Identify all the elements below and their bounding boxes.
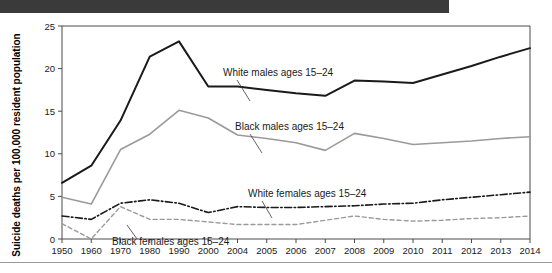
x-tick-label: 2010 xyxy=(402,245,423,256)
annotation-white-males: White males ages 15–24 xyxy=(223,67,334,78)
screenshot-root: Suicide deaths per 100,000 resident popu… xyxy=(0,0,552,273)
x-tick-label: 2011 xyxy=(432,245,452,256)
line-chart-figure: Suicide deaths per 100,000 resident popu… xyxy=(0,13,552,258)
chart-canvas: Suicide deaths per 100,000 resident popu… xyxy=(0,13,552,258)
top-banner-bar xyxy=(0,0,449,13)
y-tick-label: 5 xyxy=(50,191,55,202)
series-line-black-females-ages-15-24 xyxy=(62,207,530,239)
annotation-black-females: Black females ages 15–24 xyxy=(112,236,230,247)
x-tick-label: 2005 xyxy=(256,245,277,256)
y-tick-label: 20 xyxy=(44,63,55,74)
y-tick-label: 25 xyxy=(44,21,55,32)
x-tick-label: 2014 xyxy=(519,245,540,256)
annotation-white-females-leader xyxy=(262,201,272,218)
series-line-white-males-ages-15-24 xyxy=(62,41,530,182)
annotation-white-females: White females ages 15–24 xyxy=(248,188,367,199)
x-tick-label: 2008 xyxy=(344,245,365,256)
x-tick-label: 2013 xyxy=(490,245,511,256)
x-tick-label: 2007 xyxy=(315,245,336,256)
x-tick-label: 2006 xyxy=(285,245,306,256)
x-tick-label: 2004 xyxy=(227,245,248,256)
y-tick-label: 10 xyxy=(44,148,55,159)
bottom-divider-rule xyxy=(0,262,552,263)
x-tick-label: 1960 xyxy=(81,245,102,256)
y-tick-label: 15 xyxy=(44,106,55,117)
x-tick-label: 1950 xyxy=(51,245,72,256)
y-axis-ticks: 0510152025 xyxy=(44,21,62,245)
y-axis-title: Suicide deaths per 100,000 resident popu… xyxy=(11,33,22,256)
annotation-black-males: Black males ages 15–24 xyxy=(235,121,344,132)
y-tick-label: 0 xyxy=(50,234,55,245)
x-tick-label: 2012 xyxy=(461,245,482,256)
y-axis-title-text: Suicide deaths per 100,000 resident popu… xyxy=(11,33,22,256)
x-tick-label: 2009 xyxy=(373,245,394,256)
annotation-white-males-leader xyxy=(237,80,250,101)
